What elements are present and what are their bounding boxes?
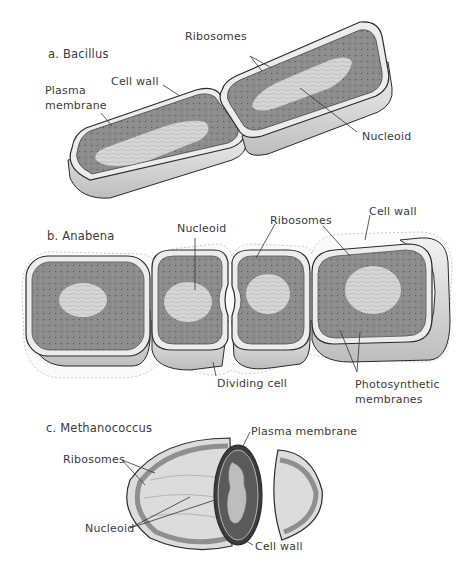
anabena-label-cell-wall: Cell wall — [369, 205, 417, 218]
methanococcus-label-nucleoid: Nucleoid — [85, 522, 134, 535]
bacillus-illustration — [68, 22, 392, 198]
bacillus-label-plasma-membrane-line2: membrane — [45, 99, 107, 112]
panel-c-title: c. Methanococcus — [46, 422, 152, 435]
anabena-label-nucleoid: Nucleoid — [177, 222, 226, 235]
anabena-label-dividing-cell: Dividing cell — [217, 377, 287, 390]
panel-b-title: b. Anabena — [47, 230, 115, 243]
methanococcus-label-cell-wall: Cell wall — [255, 540, 303, 553]
anabena-label-ribosomes: Ribosomes — [270, 214, 332, 227]
methanococcus-illustration — [122, 432, 322, 550]
bacillus-label-plasma-membrane-line1: Plasma — [45, 84, 86, 97]
anabena-label-photosynthetic-line2: membranes — [355, 393, 423, 406]
anabena-label-photosynthetic-line1: Photosynthetic — [355, 378, 440, 391]
methanococcus-label-ribosomes: Ribosomes — [63, 453, 125, 466]
bacillus-label-ribosomes: Ribosomes — [185, 30, 247, 43]
bacillus-label-nucleoid: Nucleoid — [362, 130, 411, 143]
panel-a-title: a. Bacillus — [48, 48, 109, 61]
methanococcus-label-plasma-membrane: Plasma membrane — [251, 425, 357, 438]
bacillus-label-cell-wall: Cell wall — [111, 75, 159, 88]
